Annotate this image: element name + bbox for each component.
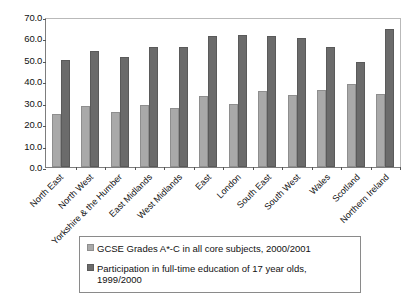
bar-group xyxy=(223,19,253,167)
y-axis-tick-label: 10.0 xyxy=(8,142,42,152)
bar-groups xyxy=(46,19,400,167)
bar xyxy=(238,35,247,167)
x-axis-label-slot: Northern Ireland xyxy=(371,170,401,232)
bar xyxy=(356,62,365,167)
x-axis-label-slot: West Midlands xyxy=(164,170,194,232)
y-axis-tick-label: 20.0 xyxy=(8,120,42,130)
legend-item-label: GCSE Grades A*-C in all core subjects, 2… xyxy=(97,243,353,254)
x-axis-label-text: East xyxy=(193,172,213,192)
y-axis-tick-label: 50.0 xyxy=(8,56,42,66)
bar-group xyxy=(371,19,401,167)
x-axis-label-slot: East xyxy=(193,170,223,232)
plot-area: 0.010.020.030.040.050.060.070.0 North Ea… xyxy=(0,0,414,230)
bar xyxy=(347,84,356,167)
y-axis: 0.010.020.030.040.050.060.070.0 xyxy=(8,12,42,168)
legend-swatch-icon xyxy=(87,264,94,271)
chart-legend: GCSE Grades A*-C in all core subjects, 2… xyxy=(79,236,361,293)
bar xyxy=(267,36,276,167)
y-axis-tick-label: 0.0 xyxy=(8,163,42,173)
bar xyxy=(229,104,238,167)
bar-group xyxy=(46,19,76,167)
plot-frame xyxy=(45,18,401,168)
bar-chart-figure: 0.010.020.030.040.050.060.070.0 North Ea… xyxy=(0,0,414,306)
bar xyxy=(385,29,394,167)
bar-group xyxy=(253,19,283,167)
y-axis-tick-label: 30.0 xyxy=(8,99,42,109)
bar-group xyxy=(341,19,371,167)
x-axis-label-text: Wales xyxy=(307,172,332,197)
y-axis-tick-label: 60.0 xyxy=(8,35,42,45)
bar xyxy=(61,60,70,167)
bar xyxy=(52,114,61,167)
legend-item-gcse: GCSE Grades A*-C in all core subjects, 2… xyxy=(87,243,353,254)
legend-item-label: Participation in full-time education of … xyxy=(97,263,353,285)
x-axis-labels: North EastNorth WestYorkshire & the Humb… xyxy=(45,170,401,232)
y-axis-tick-label: 70.0 xyxy=(8,13,42,23)
x-axis-label-slot: South West xyxy=(282,170,312,232)
y-axis-tick-label: 40.0 xyxy=(8,78,42,88)
legend-item-participation: Participation in full-time education of … xyxy=(87,263,353,285)
legend-swatch-icon xyxy=(87,244,94,251)
